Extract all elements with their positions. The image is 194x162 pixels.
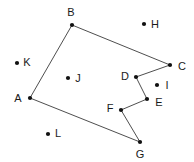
polygon-edges — [30, 25, 170, 142]
point-label-a: A — [14, 93, 21, 104]
point-label-h: H — [151, 19, 159, 30]
point-marker-g — [138, 140, 142, 144]
point-marker-l — [46, 132, 50, 136]
point-marker-f — [119, 108, 123, 112]
point-marker-c — [168, 63, 172, 67]
point-marker-h — [142, 22, 146, 26]
point-label-d: D — [121, 71, 129, 82]
point-marker-i — [155, 83, 159, 87]
geometry-figure: ABCDEFGHIJKL — [0, 0, 194, 162]
polygon-edge-cd — [136, 65, 170, 77]
point-label-f: F — [107, 103, 114, 114]
point-label-k: K — [23, 57, 30, 68]
point-marker-d — [134, 75, 138, 79]
point-label-b: B — [67, 7, 74, 18]
polygon-edge-fg — [121, 110, 140, 142]
point-marker-j — [66, 76, 70, 80]
polygon-edge-ab — [30, 25, 72, 98]
point-marker-e — [145, 97, 149, 101]
point-marker-k — [15, 61, 19, 65]
point-label-j: J — [75, 73, 81, 84]
point-label-e: E — [155, 97, 162, 108]
polygon-edge-de — [136, 77, 147, 99]
point-label-g: G — [136, 149, 145, 160]
point-marker-a — [28, 96, 32, 100]
point-marker-b — [70, 23, 74, 27]
point-label-c: C — [178, 61, 186, 72]
point-label-l: L — [55, 128, 61, 139]
polygon-edge-bc — [72, 25, 170, 65]
polygon-edge-ef — [121, 99, 147, 110]
point-label-i: I — [165, 80, 168, 91]
